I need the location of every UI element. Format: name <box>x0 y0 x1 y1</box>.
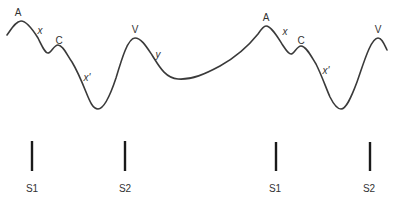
label-x-prime-descent-1: x' <box>83 72 92 83</box>
waveform-curve <box>7 21 387 109</box>
label-y-descent-1: y <box>155 49 162 60</box>
label-x-descent-2: x <box>282 26 289 37</box>
s1-label-2: S1 <box>269 183 282 194</box>
label-v-wave-1: V <box>132 24 139 35</box>
label-x-descent-1: x <box>37 25 44 36</box>
jvp-diagram: A x C x' V y A x C x' V S1 S2 S1 S2 <box>0 0 393 200</box>
label-c-wave-1: C <box>55 35 62 46</box>
label-v-wave-2: V <box>375 24 382 35</box>
s2-label-2: S2 <box>363 183 376 194</box>
label-c-wave-2: C <box>297 35 304 46</box>
s1-label-1: S1 <box>26 183 39 194</box>
label-a-wave-1: A <box>15 7 22 18</box>
label-x-prime-descent-2: x' <box>322 65 331 76</box>
s2-label-1: S2 <box>119 183 132 194</box>
label-a-wave-2: A <box>263 12 270 23</box>
